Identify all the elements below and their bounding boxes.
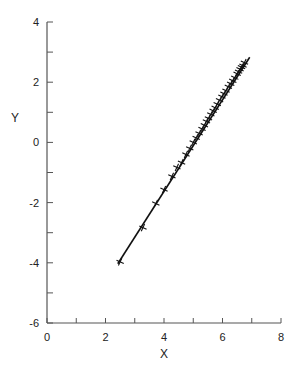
tick-labels: 02468-6-4-2024: [29, 16, 284, 343]
scatter-chart: 02468-6-4-2024 X Y: [0, 0, 301, 369]
y-tick-label: -2: [29, 197, 39, 209]
x-tick-label: 2: [102, 331, 108, 343]
x-tick-label: 6: [219, 331, 225, 343]
fit-line: [118, 57, 250, 263]
x-axis-label: X: [160, 347, 168, 361]
regression-line: [118, 57, 250, 263]
y-tick-label: 0: [33, 136, 39, 148]
y-tick-label: -4: [29, 257, 39, 269]
y-axis-label: Y: [11, 111, 19, 125]
y-tick-label: 2: [33, 76, 39, 88]
x-tick-label: 8: [278, 331, 284, 343]
plus-marker: [115, 257, 126, 268]
y-tick-label: -6: [29, 317, 39, 329]
x-tick-label: 4: [161, 331, 167, 343]
x-tick-label: 0: [44, 331, 50, 343]
y-tick-label: 4: [33, 16, 39, 28]
